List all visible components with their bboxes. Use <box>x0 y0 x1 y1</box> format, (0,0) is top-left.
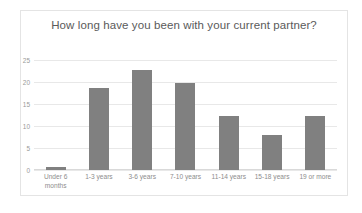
gridline <box>34 170 337 171</box>
bar-slot <box>294 60 337 170</box>
x-tick-label: 1-3 years <box>77 173 120 182</box>
y-tick-label: 5 <box>26 145 30 152</box>
bar-series <box>34 60 337 170</box>
x-tick-label: Under 6 months <box>34 173 77 190</box>
chart-container: How long have you been with your current… <box>20 10 348 196</box>
bar-slot <box>164 60 207 170</box>
bar-slot <box>121 60 164 170</box>
x-tick-label: 19 or more <box>294 173 337 182</box>
x-tick-label: 15-18 years <box>250 173 293 182</box>
x-tick-label: 11-14 years <box>207 173 250 182</box>
bar <box>262 135 282 170</box>
y-tick-label: 25 <box>23 57 30 64</box>
bar-slot <box>34 60 77 170</box>
bar <box>219 116 239 170</box>
bar <box>132 70 152 170</box>
bar-slot <box>250 60 293 170</box>
y-tick-label: 15 <box>23 101 30 108</box>
y-tick-label: 10 <box>23 123 30 130</box>
chart-title: How long have you been with your current… <box>21 19 347 31</box>
bar <box>305 116 325 170</box>
y-tick-label: 20 <box>23 79 30 86</box>
bar <box>175 83 195 170</box>
bar-slot <box>77 60 120 170</box>
plot-area: 0510152025 Under 6 months1-3 years3-6 ye… <box>34 60 337 170</box>
x-tick-label: 7-10 years <box>164 173 207 182</box>
x-tick-label: 3-6 years <box>121 173 164 182</box>
bar <box>46 167 66 170</box>
bar <box>89 88 109 170</box>
bar-slot <box>207 60 250 170</box>
y-tick-label: 0 <box>26 167 30 174</box>
